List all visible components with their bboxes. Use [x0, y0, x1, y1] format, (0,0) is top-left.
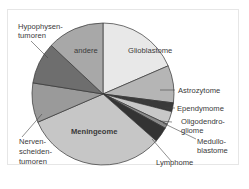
label-meningeome: Meningeome: [71, 127, 117, 136]
label-nervenscheidentumoren-1: Nerven-: [19, 137, 46, 146]
pie-slices: [32, 23, 174, 165]
label-nervenscheidentumoren-2: scheiden-: [19, 147, 52, 156]
label-medulloblastome-2: blastome: [197, 146, 228, 155]
label-hypophysentumoren-2: tumoren: [18, 31, 46, 40]
label-oligodendrogliome-2: gliome: [181, 126, 203, 135]
label-medulloblastome-1: Medullo-: [197, 137, 227, 146]
label-astrozytome: Astrozytome: [178, 86, 220, 95]
label-ependymome: Ependymome: [177, 104, 224, 113]
label-hypophysentumoren-1: Hypophysen-: [18, 22, 63, 31]
pie-chart: Glioblastome andere Meningeome Astrozyto…: [0, 0, 249, 189]
label-glioblastome: Glioblastome: [128, 46, 172, 55]
label-nervenscheidentumoren-3: tumoren: [19, 157, 47, 166]
label-oligodendrogliome-1: Oligodendro-: [181, 117, 225, 126]
label-andere: andere: [74, 46, 98, 55]
label-lymphome: Lymphome: [156, 158, 193, 167]
